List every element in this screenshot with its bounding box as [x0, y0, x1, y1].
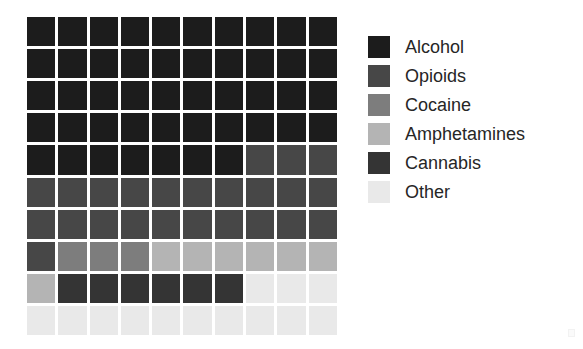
waffle-cell: [309, 145, 337, 174]
waffle-cell: [58, 210, 86, 239]
waffle-cell: [246, 274, 274, 303]
waffle-cell: [152, 178, 180, 207]
legend-item-amphetamines[interactable]: Amphetamines: [368, 119, 568, 148]
waffle-cell: [215, 306, 243, 335]
waffle-cell: [121, 306, 149, 335]
legend-item-cocaine[interactable]: Cocaine: [368, 90, 568, 119]
waffle-cell: [58, 274, 86, 303]
waffle-cell: [121, 178, 149, 207]
waffle-cell: [246, 145, 274, 174]
waffle-cell: [246, 306, 274, 335]
waffle-cell: [27, 17, 55, 46]
waffle-cell: [309, 17, 337, 46]
waffle-cell: [309, 210, 337, 239]
waffle-cell: [277, 178, 305, 207]
waffle-cell: [246, 113, 274, 142]
waffle-cell: [277, 49, 305, 78]
waffle-cell: [58, 178, 86, 207]
waffle-cell: [277, 81, 305, 110]
waffle-cell: [152, 17, 180, 46]
waffle-cell: [277, 210, 305, 239]
corner-artifact: [568, 329, 575, 337]
legend-item-alcohol[interactable]: Alcohol: [368, 32, 568, 61]
chart-legend: AlcoholOpioidsCocaineAmphetaminesCannabi…: [368, 32, 568, 206]
waffle-cell: [215, 81, 243, 110]
waffle-cell: [152, 113, 180, 142]
waffle-cell: [90, 306, 118, 335]
waffle-cell: [90, 81, 118, 110]
waffle-cell: [215, 274, 243, 303]
waffle-cell: [277, 242, 305, 271]
waffle-cell: [309, 49, 337, 78]
waffle-cell: [27, 242, 55, 271]
waffle-cell: [121, 274, 149, 303]
waffle-cell: [183, 81, 211, 110]
waffle-cell: [27, 178, 55, 207]
waffle-cell: [246, 49, 274, 78]
waffle-cell: [215, 49, 243, 78]
waffle-cell: [183, 274, 211, 303]
waffle-cell: [309, 274, 337, 303]
waffle-cell: [215, 178, 243, 207]
waffle-cell: [152, 306, 180, 335]
waffle-cell: [90, 49, 118, 78]
waffle-cell: [121, 210, 149, 239]
legend-item-other[interactable]: Other: [368, 177, 568, 206]
waffle-cell: [90, 145, 118, 174]
waffle-cell: [183, 49, 211, 78]
legend-label: Opioids: [405, 65, 466, 87]
waffle-cell: [246, 17, 274, 46]
legend-label: Alcohol: [405, 36, 464, 58]
waffle-cell: [309, 242, 337, 271]
waffle-cell: [90, 17, 118, 46]
legend-swatch-alcohol: [368, 36, 390, 58]
waffle-cell: [277, 274, 305, 303]
waffle-cell: [58, 145, 86, 174]
waffle-cell: [246, 178, 274, 207]
waffle-cell: [246, 81, 274, 110]
waffle-cell: [152, 274, 180, 303]
waffle-cell: [183, 242, 211, 271]
waffle-cell: [27, 274, 55, 303]
waffle-cell: [121, 242, 149, 271]
waffle-cell: [183, 17, 211, 46]
waffle-cell: [27, 210, 55, 239]
waffle-cell: [27, 306, 55, 335]
waffle-cell: [121, 17, 149, 46]
waffle-cell: [215, 242, 243, 271]
waffle-cell: [183, 145, 211, 174]
waffle-cell: [58, 113, 86, 142]
waffle-cell: [58, 306, 86, 335]
waffle-cell: [309, 306, 337, 335]
waffle-cell: [183, 178, 211, 207]
waffle-cell: [277, 113, 305, 142]
legend-label: Other: [405, 181, 450, 203]
legend-label: Cannabis: [405, 152, 481, 174]
waffle-cell: [215, 17, 243, 46]
legend-item-cannabis[interactable]: Cannabis: [368, 148, 568, 177]
waffle-cell: [152, 210, 180, 239]
waffle-cell: [277, 17, 305, 46]
waffle-cell: [121, 49, 149, 78]
waffle-cell: [183, 306, 211, 335]
waffle-cell: [309, 178, 337, 207]
legend-swatch-other: [368, 181, 390, 203]
legend-item-opioids[interactable]: Opioids: [368, 61, 568, 90]
legend-swatch-cannabis: [368, 152, 390, 174]
waffle-cell: [90, 242, 118, 271]
waffle-cell: [90, 210, 118, 239]
waffle-cell: [121, 81, 149, 110]
waffle-cell: [27, 145, 55, 174]
waffle-cell: [183, 210, 211, 239]
waffle-cell: [215, 210, 243, 239]
waffle-grid: [27, 17, 337, 335]
waffle-cell: [27, 113, 55, 142]
waffle-cell: [58, 81, 86, 110]
waffle-cell: [27, 49, 55, 78]
waffle-cell: [90, 113, 118, 142]
waffle-cell: [58, 17, 86, 46]
waffle-cell: [152, 81, 180, 110]
waffle-cell: [246, 242, 274, 271]
legend-swatch-cocaine: [368, 94, 390, 116]
waffle-cell: [27, 81, 55, 110]
